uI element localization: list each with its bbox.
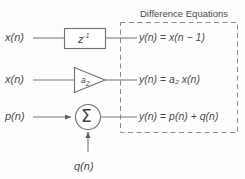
summing-junction-sigma-symbol: Σ <box>81 108 92 125</box>
difference-equations-title: Difference Equations <box>140 9 228 19</box>
row3-equation-rhs: p(n) + q(n) <box>169 110 218 122</box>
row1-equation-lhs: y(n) <box>139 31 157 43</box>
gain-triangle-label-subscript: 2 <box>86 80 90 88</box>
row1-equation-operator: = <box>157 31 169 43</box>
row2-equation: y(n) = a₂ x(n) <box>139 74 200 85</box>
row3-second-input-label: q(n) <box>74 161 94 172</box>
diagram-vector-layer <box>0 0 245 179</box>
gain-triangle-shape <box>75 68 106 93</box>
row3-input-label: p(n) <box>5 111 25 122</box>
gain-triangle-label: a2 <box>81 76 90 88</box>
delay-block-label-exponent: -1 <box>84 32 90 39</box>
row1-equation-rhs: x(n − 1) <box>169 31 205 43</box>
delay-block-label: z-1 <box>78 33 89 45</box>
row3-equation-lhs: y(n) <box>139 110 157 122</box>
row3-equation-operator: = <box>157 110 169 122</box>
figure-canvas: Difference Equations x(n) x(n) p(n) q(n)… <box>0 0 245 179</box>
row2-equation-rhs: a₂ x(n) <box>169 73 200 85</box>
row1-input-label: x(n) <box>5 32 24 43</box>
row2-equation-lhs: y(n) <box>139 73 157 85</box>
row3-equation: y(n) = p(n) + q(n) <box>139 111 218 122</box>
row2-equation-operator: = <box>157 73 169 85</box>
row2-input-label: x(n) <box>5 74 24 85</box>
row1-equation: y(n) = x(n − 1) <box>139 32 205 43</box>
